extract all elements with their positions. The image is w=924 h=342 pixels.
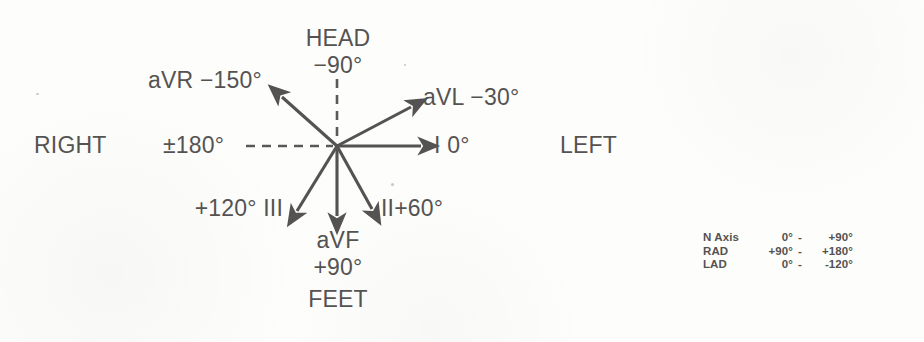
lead-vector-II [337,146,372,209]
axis-deviation-legend: N Axis 0° - +90° RAD +90° - +180° LAD 0°… [703,231,853,272]
label-head: HEAD [306,27,371,50]
legend-from-n-axis: 0° [751,231,793,245]
scan-speck [404,64,406,66]
lead-vector-III [297,146,337,211]
label-lead-aVF: aVF [317,229,360,252]
label-lead-III: +120° III [195,197,283,220]
label-left: LEFT [560,134,617,157]
legend-from-rad: +90° [751,245,793,259]
label-lead-aVL: aVL −30° [423,86,519,109]
label-lead-II: II+60° [381,197,443,220]
legend-term-rad: RAD [703,245,751,259]
ecg-axis-diagram-page: HEAD −90° aVR −150° aVL −30° RIGHT ±180°… [0,0,924,342]
legend-term-lad: LAD [703,258,751,272]
lead-vector-aVR [282,97,337,146]
legend-dash-rad: - [793,245,807,259]
legend-to-lad: -120° [807,258,853,272]
scan-speck [391,183,394,186]
legend-dash-lad: - [793,258,807,272]
label-lead-aVR: aVR −150° [148,69,262,92]
label-right: RIGHT [34,134,107,157]
label-head-degrees: −90° [313,54,362,77]
legend-dash-n-axis: - [793,231,807,245]
legend-term-n-axis: N Axis [703,231,751,245]
legend-to-rad: +180° [807,245,853,259]
legend-from-lad: 0° [751,258,793,272]
lead-vector-aVL [337,107,411,146]
label-plusminus-180: ±180° [163,134,224,157]
legend-row-rad: RAD +90° - +180° [703,245,853,259]
scan-speck [36,93,39,95]
hexaxial-vector-graphic [0,0,924,342]
legend-row-lad: LAD 0° - -120° [703,258,853,272]
legend-to-n-axis: +90° [807,231,853,245]
label-feet: FEET [308,288,368,311]
legend-row-n-axis: N Axis 0° - +90° [703,231,853,245]
label-lead-aVF-degrees: +90° [313,256,362,279]
label-lead-I: I 0° [434,134,470,157]
